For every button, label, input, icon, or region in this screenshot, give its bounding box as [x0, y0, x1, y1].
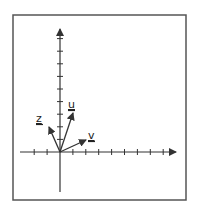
vector-u: u — [60, 98, 75, 152]
vector-u-label: u — [68, 98, 75, 111]
vectors: uvz — [36, 98, 95, 152]
vector-diagram: uvz — [0, 0, 199, 214]
vector-u-arrow — [60, 113, 73, 152]
vector-z: z — [36, 112, 60, 152]
x-axis — [20, 149, 176, 155]
vector-z-label: z — [36, 112, 42, 125]
vector-v: v — [60, 129, 95, 152]
vector-v-label: v — [88, 129, 95, 142]
y-axis — [57, 29, 63, 192]
diagram-frame — [13, 15, 186, 200]
